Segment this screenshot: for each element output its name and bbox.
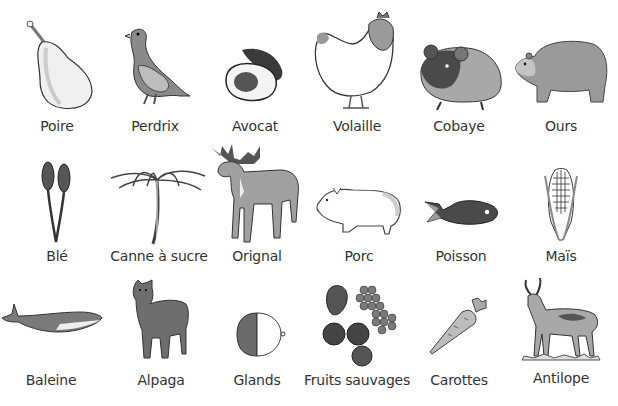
guinea-pig-icon	[411, 36, 507, 110]
label-baleine: Baleine	[0, 372, 112, 388]
corn-icon	[541, 166, 581, 242]
label-mais: Maïs	[500, 248, 618, 264]
whale-icon	[0, 300, 104, 336]
carrot-icon	[424, 296, 494, 358]
pig-icon	[313, 184, 405, 236]
label-antilope: Antilope	[500, 370, 618, 386]
moose-icon	[210, 142, 304, 246]
sugar-cane-icon	[109, 164, 209, 246]
label-ours: Ours	[500, 118, 618, 134]
alpaca-icon	[126, 278, 196, 362]
wild-berries-icon	[312, 278, 402, 368]
wheat-icon	[36, 160, 76, 244]
bear-icon	[511, 36, 611, 108]
fish-icon	[421, 196, 501, 230]
partridge-icon	[110, 22, 200, 106]
antelope-icon	[514, 276, 608, 366]
acorn-icon	[227, 310, 287, 360]
avocado-icon	[220, 44, 290, 104]
chicken-icon	[307, 8, 407, 110]
pear-icon	[12, 18, 102, 110]
